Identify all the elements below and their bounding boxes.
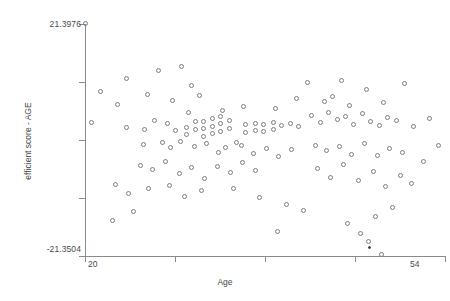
data-point [227,126,232,131]
data-point [387,146,392,151]
data-point [358,231,363,236]
data-point [170,98,175,103]
data-point [421,159,426,164]
data-point [231,186,236,191]
data-point [199,188,204,193]
data-point [284,202,289,207]
data-point [436,143,441,148]
data-point [228,170,233,175]
data-point [253,128,258,133]
data-point [356,178,361,183]
data-point [273,106,278,111]
data-point [215,164,220,169]
data-point [349,152,354,157]
data-point [160,140,165,145]
data-point [131,209,136,214]
data-point [239,143,244,148]
data-point [141,142,146,147]
data-point [271,127,276,132]
data-point [279,123,284,128]
data-point [189,165,194,170]
data-point [275,229,280,234]
data-point [184,125,189,130]
data-point [379,252,384,257]
data-point [324,148,329,153]
data-point [375,153,380,158]
data-point [409,181,414,186]
data-point [201,134,206,139]
data-point [313,143,318,148]
data-point [351,122,356,127]
data-point [98,89,103,94]
data-point [402,81,407,86]
data-point [390,205,395,210]
data-point [341,162,346,167]
data-point [201,119,206,124]
data-point [220,108,225,113]
data-point [178,139,183,144]
data-point [146,186,151,191]
data-point [179,64,184,69]
data-point [253,121,258,126]
data-point [182,194,187,199]
data-point [253,168,258,173]
data-point [301,208,306,213]
data-point [377,123,382,128]
data-point [366,239,371,244]
data-point [315,166,320,171]
data-point [400,150,405,155]
data-point [368,246,371,249]
data-point [330,94,335,99]
data-point [192,144,197,149]
data-point [218,121,223,126]
data-point [337,144,342,149]
data-point [328,175,333,180]
data-point [335,117,340,122]
data-point [173,128,178,133]
data-point [368,119,373,124]
data-point [124,76,129,81]
data-point [210,116,215,121]
data-point [113,182,118,187]
data-point [385,115,390,120]
data-point [165,121,170,126]
data-point [343,114,348,119]
data-point [309,113,314,118]
data-point [288,121,293,126]
plot-area [0,0,450,301]
data-point [360,111,365,116]
data-point [152,118,157,123]
data-point [189,83,194,88]
data-point [276,154,281,159]
data-point [289,147,294,152]
data-point [271,120,276,125]
data-point [383,184,388,189]
data-point [261,129,266,134]
data-point [210,131,215,136]
data-point [150,167,155,172]
data-point [156,68,161,73]
data-point [364,87,369,92]
scatter-plot-figure: 21.3976 -21.3504 20 54 Age efficient sco… [0,0,450,301]
data-point [124,125,129,130]
data-point [193,119,198,124]
data-point [202,176,207,181]
data-point [142,127,147,132]
data-point [163,159,168,164]
data-point [186,110,191,115]
data-point [193,127,198,132]
data-point [210,124,215,129]
data-point [305,80,310,85]
data-point [371,169,376,174]
data-point [216,150,221,155]
data-point [318,120,323,125]
data-point [201,126,206,131]
data-point [257,195,262,200]
data-point [296,124,301,129]
data-point [394,118,399,123]
data-point [218,129,223,134]
data-point [89,120,94,125]
data-point [243,130,248,135]
data-point [184,132,189,137]
data-point [145,92,150,97]
